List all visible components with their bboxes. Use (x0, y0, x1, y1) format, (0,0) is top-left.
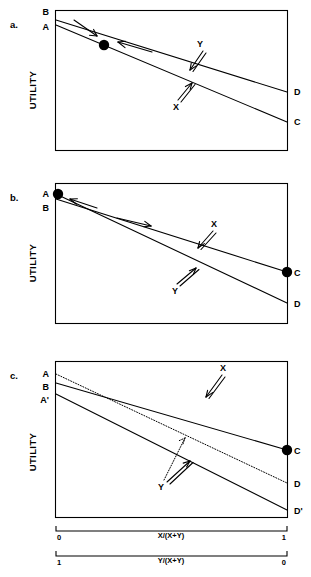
panel-c-right-label-d: D (294, 479, 301, 489)
panel-c-annotation-y: Y (158, 438, 193, 492)
axis-2-title: Y/(X+Y) (158, 556, 185, 565)
panel-a-line-x (56, 25, 287, 122)
panel-c-right-label-c: C (294, 446, 301, 456)
panel-b-letter: b. (10, 192, 18, 203)
panel-b-dot-a (53, 189, 63, 199)
panel-c-line-dotted-ad (56, 374, 287, 483)
panel-b-y-axis-label: UTILITY (27, 243, 38, 282)
panel-c-label-x: X (220, 363, 226, 373)
axis-y-over-xplusy: 1 0 Y/(X+Y) (56, 551, 287, 567)
panel-a-left-label-a: A (43, 22, 50, 32)
panel-c-right-label-d-prime: D' (294, 506, 303, 516)
panel-a: Y X B A D C a. UTILITY (10, 7, 301, 151)
panel-a-right-label-c: C (294, 117, 301, 127)
utility-figure: Y X B A D C a. UTILITY (0, 0, 311, 577)
panel-c-letter: c. (10, 370, 18, 381)
panel-c: X Y A B A' C D D' c. (10, 362, 303, 518)
panel-c-y-axis-label: UTILITY (27, 432, 38, 471)
panel-a-label-x: X (173, 102, 179, 112)
axis-1-right-tick: 1 (282, 533, 286, 542)
axis-2-right-tick: 0 (282, 558, 286, 567)
panel-a-annotation-x: X (173, 83, 195, 112)
axis-x-over-xplusy: 0 1 X/(X+Y) (56, 526, 287, 542)
panel-a-letter: a. (10, 19, 18, 30)
panel-b-right-label-d: D (294, 299, 301, 309)
axis-1-left-tick: 0 (57, 533, 61, 542)
panel-c-dot-c (282, 445, 292, 455)
panel-a-equilibrium-dot (99, 40, 109, 50)
panel-a-y-axis-label: UTILITY (27, 70, 38, 109)
axis-1-title: X/(X+Y) (158, 531, 185, 540)
panel-b-annotation-x: X (198, 219, 217, 250)
panel-a-line-y (56, 20, 287, 92)
panel-c-left-label-a-prime: A' (40, 395, 49, 405)
panel-b-label-y: Y (172, 286, 178, 296)
panel-c-left-label-b: B (43, 382, 50, 392)
panel-b-right-label-c: C (294, 268, 301, 278)
panel-b-label-x: X (211, 219, 217, 229)
panel-a-label-y: Y (197, 39, 203, 49)
panel-c-annotation-x: X (206, 363, 226, 399)
panel-b-dot-c (282, 267, 292, 277)
panel-c-line-y (56, 394, 287, 510)
figure-container: Y X B A D C a. UTILITY (0, 0, 311, 577)
axis-2-left-tick: 1 (57, 558, 61, 567)
panel-c-left-label-a: A (43, 369, 50, 379)
panel-b: X Y A B C D b. UTILITY (10, 184, 301, 324)
panel-b-left-label-b: B (43, 203, 50, 213)
panel-a-annotation-y: Y (190, 39, 206, 72)
panel-c-label-y: Y (158, 482, 164, 492)
panel-a-arrow-left (118, 41, 152, 52)
panel-a-left-label-b: B (43, 7, 50, 17)
panel-b-annotation-y: Y (172, 268, 199, 296)
panel-b-frame (56, 184, 288, 324)
panel-a-right-label-d: D (294, 87, 301, 97)
panel-c-line-x (56, 383, 287, 450)
panel-b-left-label-a: A (43, 189, 50, 199)
